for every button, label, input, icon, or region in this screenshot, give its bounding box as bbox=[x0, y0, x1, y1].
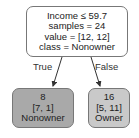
leaf-node-owner: 16 [5, 11] Owner bbox=[88, 88, 130, 128]
edge-label-true: True bbox=[33, 61, 52, 72]
leaf-node-nonowner: 8 [7, 1] Nonowner bbox=[12, 88, 74, 128]
root-class: class = Nonowner bbox=[39, 42, 115, 53]
leaf-class: Nonowner bbox=[21, 113, 64, 124]
leaf-class: Owner bbox=[95, 113, 123, 124]
edge-label-false: False bbox=[95, 61, 118, 72]
root-samples: samples = 24 bbox=[49, 21, 106, 32]
edge-true bbox=[53, 57, 62, 86]
root-node: Income ≤ 59.7 samples = 24 value = [12, … bbox=[26, 6, 128, 57]
